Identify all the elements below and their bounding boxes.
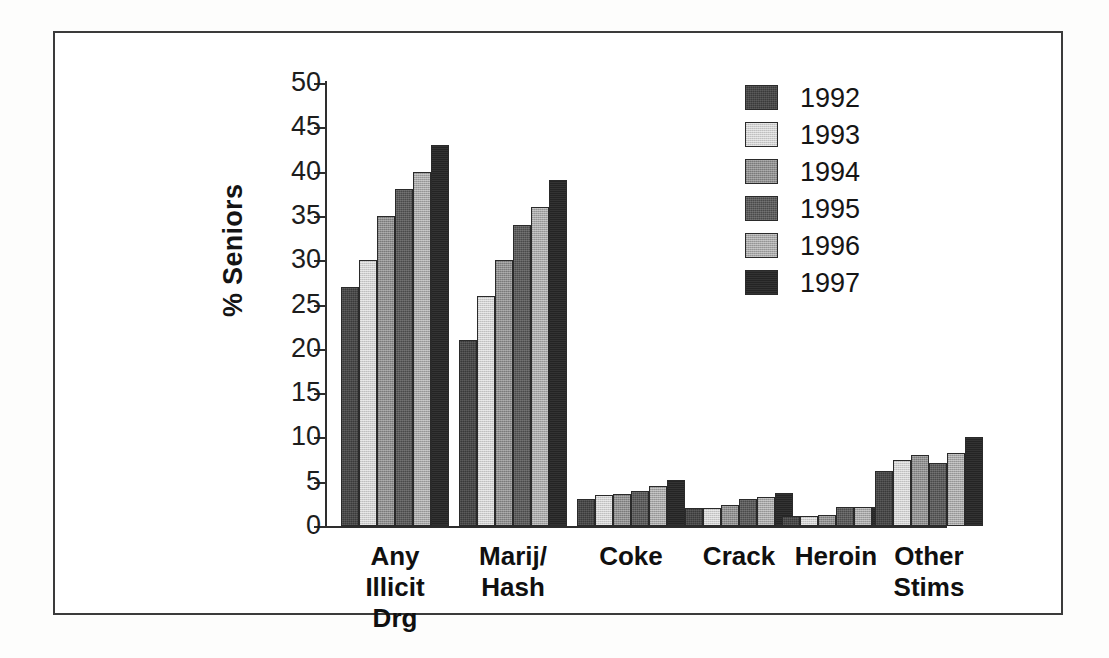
bar <box>531 207 549 526</box>
bar <box>911 455 929 526</box>
bar <box>513 225 531 526</box>
legend-label: 1996 <box>800 231 860 261</box>
bar <box>395 189 413 526</box>
bar <box>495 260 513 526</box>
bar <box>341 287 359 526</box>
legend-item: 1992 <box>745 79 860 116</box>
bar <box>929 463 947 526</box>
legend-swatch-icon <box>745 159 778 184</box>
bar <box>782 516 800 526</box>
chart-frame: % Seniors 05101520253035404550 Any Illic… <box>53 31 1063 615</box>
legend-label: 1992 <box>800 83 860 113</box>
x-axis-label: Other Stims <box>839 541 1019 603</box>
bar <box>377 216 395 526</box>
bar <box>359 260 377 526</box>
bar <box>413 172 431 526</box>
x-axis-line <box>325 526 947 528</box>
bar <box>818 515 836 526</box>
legend-swatch-icon <box>745 233 778 258</box>
bar-group <box>459 83 567 526</box>
bar <box>739 499 757 526</box>
bar <box>459 340 477 526</box>
bar-group <box>875 83 983 526</box>
legend-label: 1993 <box>800 120 860 150</box>
y-tick-label: 20 <box>291 333 321 363</box>
bar <box>757 497 775 526</box>
bar <box>947 453 965 526</box>
legend-item: 1997 <box>745 264 860 301</box>
y-tick-label: 5 <box>306 466 321 496</box>
bar <box>721 505 739 526</box>
bar <box>893 460 911 526</box>
y-tick-label: 10 <box>291 421 321 451</box>
bar <box>477 296 495 526</box>
legend-swatch-icon <box>745 196 778 221</box>
y-tick-label: 0 <box>306 510 321 540</box>
bar <box>577 499 595 526</box>
bar <box>431 145 449 526</box>
legend-label: 1994 <box>800 157 860 187</box>
bar <box>854 507 872 526</box>
bar <box>549 180 567 526</box>
legend-swatch-icon <box>745 270 778 295</box>
bar <box>875 471 893 526</box>
bar-group <box>341 83 449 526</box>
bar <box>836 507 854 526</box>
legend-item: 1995 <box>745 190 860 227</box>
bar <box>631 491 649 526</box>
y-tick-label: 50 <box>291 67 321 97</box>
bar <box>703 508 721 526</box>
y-tick-label: 15 <box>291 377 321 407</box>
legend-swatch-icon <box>745 122 778 147</box>
legend-swatch-icon <box>745 85 778 110</box>
y-tick-label: 35 <box>291 200 321 230</box>
y-tick-label: 30 <box>291 244 321 274</box>
legend-item: 1993 <box>745 116 860 153</box>
bar <box>613 494 631 526</box>
bar <box>649 486 667 526</box>
chart-figure: % Seniors 05101520253035404550 Any Illic… <box>0 0 1109 658</box>
y-tick-label: 45 <box>291 111 321 141</box>
legend-item: 1994 <box>745 153 860 190</box>
bar <box>595 495 613 526</box>
legend-item: 1996 <box>745 227 860 264</box>
bar <box>667 480 685 526</box>
y-tick-label: 40 <box>291 156 321 186</box>
bar <box>965 437 983 526</box>
chart-legend: 199219931994199519961997 <box>745 79 860 301</box>
legend-label: 1997 <box>800 268 860 298</box>
y-tick-label: 25 <box>291 289 321 319</box>
bar-group <box>577 83 685 526</box>
y-axis-label: % Seniors <box>218 117 249 317</box>
legend-label: 1995 <box>800 194 860 224</box>
bar <box>800 516 818 526</box>
bar <box>685 508 703 526</box>
